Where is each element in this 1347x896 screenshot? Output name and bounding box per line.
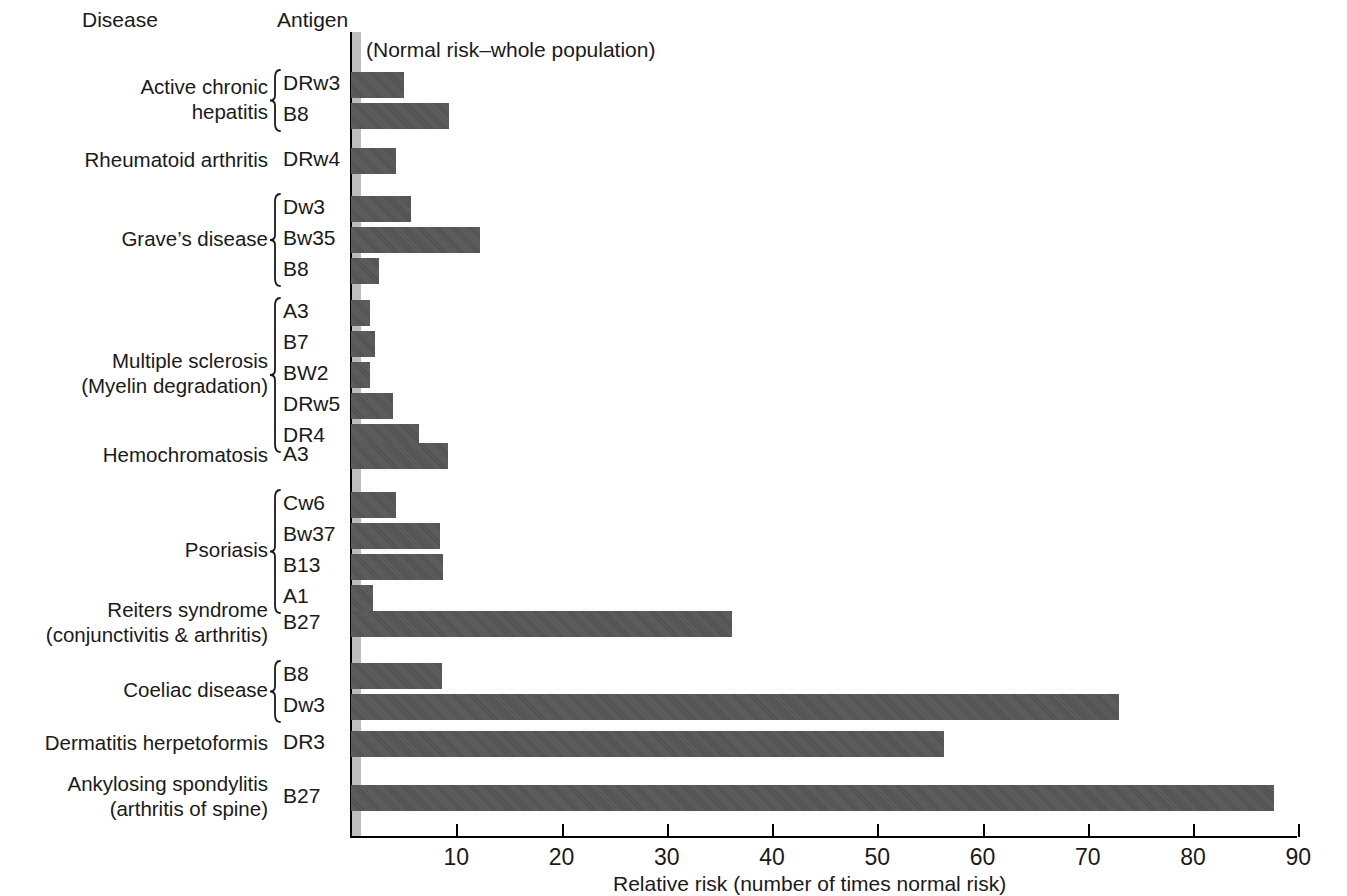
antigen-label: A3 (283, 442, 309, 466)
disease-label: Grave’s disease (0, 226, 268, 251)
antigen-label: B8 (283, 662, 309, 686)
antigen-label: A1 (283, 584, 309, 608)
group-brace (268, 660, 282, 723)
antigen-label: B13 (283, 553, 320, 577)
antigen-label: Bw35 (283, 226, 336, 250)
antigen-label: B27 (283, 784, 320, 808)
antigen-label: DRw5 (283, 392, 340, 416)
disease-label: Active chronic hepatitis (0, 74, 268, 124)
disease-label: Reiters syndrome (conjunctivitis & arthr… (0, 597, 268, 647)
antigen-label: Dw3 (283, 693, 325, 717)
antigen-label: DR3 (283, 730, 325, 754)
antigen-label: B27 (283, 610, 320, 634)
disease-label: Ankylosing spondylitis (arthritis of spi… (0, 771, 268, 821)
group-brace (268, 69, 282, 132)
group-brace (268, 489, 282, 614)
antigen-label: B7 (283, 330, 309, 354)
group-brace (268, 297, 282, 453)
disease-label: Dermatitis herpetoformis (0, 730, 268, 755)
disease-label: Rheumatoid arthritis (0, 147, 268, 172)
group-brace (268, 193, 282, 287)
antigen-label: BW2 (283, 361, 329, 385)
antigen-label: Cw6 (283, 491, 325, 515)
antigen-label: Bw37 (283, 522, 336, 546)
antigen-label: DRw4 (283, 147, 340, 171)
disease-label: Psoriasis (0, 537, 268, 562)
disease-label: Multiple sclerosis (Myelin degradation) (0, 348, 268, 398)
disease-label: Coeliac disease (0, 677, 268, 702)
disease-label: Hemochromatosis (0, 442, 268, 467)
antigen-label: B8 (283, 257, 309, 281)
antigen-label: A3 (283, 299, 309, 323)
antigen-label: Dw3 (283, 195, 325, 219)
x-axis-title: Relative risk (number of times normal ri… (613, 872, 1006, 896)
antigen-label: DRw3 (283, 71, 340, 95)
antigen-label: B8 (283, 102, 309, 126)
